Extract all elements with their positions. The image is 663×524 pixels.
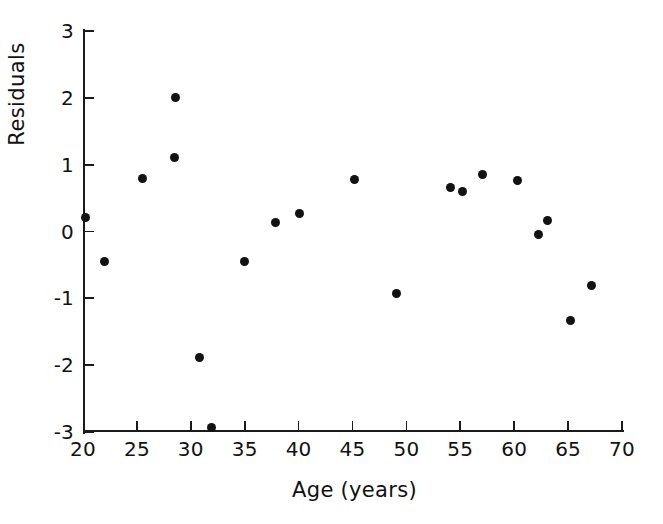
- x-axis-label: Age (years): [292, 478, 417, 502]
- y-tick-label: 1: [34, 153, 74, 177]
- plot-data-area: [83, 31, 622, 432]
- data-point: [207, 423, 216, 432]
- data-point: [81, 213, 90, 222]
- data-point: [138, 174, 147, 183]
- data-point: [240, 257, 249, 266]
- data-point: [170, 153, 179, 162]
- data-point: [195, 353, 204, 362]
- data-point: [478, 170, 487, 179]
- x-tick-label: 20: [58, 437, 108, 461]
- data-point: [392, 289, 401, 298]
- scatter-plot-figure: -3-2-10123 2025303540455055606570 Residu…: [0, 0, 663, 524]
- x-tick-label: 30: [166, 437, 216, 461]
- data-point: [100, 257, 109, 266]
- data-point: [534, 230, 543, 239]
- y-tick-label: 2: [34, 86, 74, 110]
- data-point: [543, 216, 552, 225]
- data-point: [566, 316, 575, 325]
- data-point: [513, 176, 522, 185]
- x-tick-label: 60: [489, 437, 539, 461]
- data-point: [350, 175, 359, 184]
- y-tick-label: -1: [34, 286, 74, 310]
- x-tick-label: 55: [435, 437, 485, 461]
- x-tick-label: 65: [543, 437, 593, 461]
- data-point: [171, 93, 180, 102]
- y-tick-label: 3: [34, 19, 74, 43]
- x-tick-label: 45: [328, 437, 378, 461]
- x-tick-label: 40: [274, 437, 324, 461]
- x-tick-label: 70: [597, 437, 647, 461]
- data-point: [458, 187, 467, 196]
- x-tick-label: 35: [220, 437, 270, 461]
- y-tick-label: 0: [34, 220, 74, 244]
- y-axis-label: Residuals: [5, 4, 29, 184]
- data-point: [295, 209, 304, 218]
- data-point: [587, 281, 596, 290]
- x-axis-label-wrapper: Age (years): [0, 478, 663, 502]
- x-tick-label: 50: [381, 437, 431, 461]
- y-tick-label: -2: [34, 353, 74, 377]
- data-point: [446, 183, 455, 192]
- x-tick-label: 25: [112, 437, 162, 461]
- data-point: [271, 218, 280, 227]
